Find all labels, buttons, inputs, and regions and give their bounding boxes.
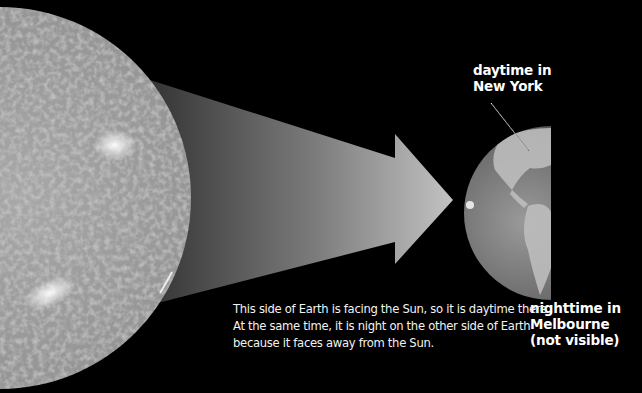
explanation-caption: This side of Earth is facing the Sun, so… [233,301,563,352]
daytime-label-line1: daytime in [473,62,551,78]
earth [464,126,638,300]
sun [0,7,191,389]
daytime-new-york-label: daytime in New York [473,62,551,94]
daytime-label-line2: New York [473,78,551,94]
sunlight-arrow [150,80,453,305]
